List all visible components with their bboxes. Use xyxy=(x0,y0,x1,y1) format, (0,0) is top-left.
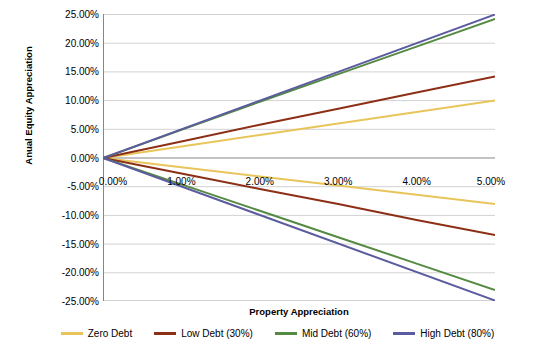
y-tick-label: -10.00% xyxy=(62,209,99,220)
legend-label: Zero Debt xyxy=(88,328,132,339)
y-tick-label: 25.00% xyxy=(65,9,99,20)
x-tick-label: 4.00% xyxy=(402,176,430,187)
y-tick-label: 0.00% xyxy=(71,152,99,163)
legend-item-mid-debt: Mid Debt (60%) xyxy=(275,328,371,339)
chart-container: 25.00% 20.00% 15.00% 10.00% 5.00% 0.00% … xyxy=(0,0,555,361)
legend-swatch-icon xyxy=(393,332,415,335)
y-tick-label: -25.00% xyxy=(62,296,99,307)
y-tick-label: 10.00% xyxy=(65,95,99,106)
legend-label: Mid Debt (60%) xyxy=(302,328,371,339)
y-tick-label: 15.00% xyxy=(65,66,99,77)
legend-label: Low Debt (30%) xyxy=(181,328,253,339)
x-tick-label: 2.00% xyxy=(246,176,274,187)
plot-area xyxy=(103,14,495,301)
y-tick-label: -5.00% xyxy=(67,181,99,192)
x-tick-label: 1.00% xyxy=(167,176,195,187)
y-tick-label: -20.00% xyxy=(62,267,99,278)
legend-swatch-icon xyxy=(61,332,83,335)
legend-item-zero-debt: Zero Debt xyxy=(61,328,132,339)
x-axis-title: Property Appreciation xyxy=(103,306,495,317)
x-tick-label: 3.00% xyxy=(324,176,352,187)
y-tick-label: 20.00% xyxy=(65,37,99,48)
x-tick-label: 0.00% xyxy=(99,176,127,187)
legend-label: High Debt (80%) xyxy=(420,328,494,339)
series-mid-debt xyxy=(103,19,495,290)
x-axis-tick-labels: 0.00% 1.00% 2.00% 3.00% 4.00% 5.00% xyxy=(103,176,503,192)
y-axis-tick-labels: 25.00% 20.00% 15.00% 10.00% 5.00% 0.00% … xyxy=(38,14,99,301)
x-tick-label: 5.00% xyxy=(477,176,505,187)
y-tick-label: -15.00% xyxy=(62,238,99,249)
legend-item-high-debt: High Debt (80%) xyxy=(393,328,494,339)
legend-item-low-debt: Low Debt (30%) xyxy=(154,328,253,339)
legend-swatch-icon xyxy=(154,332,176,335)
y-axis-title: Anual Equity Appreciation xyxy=(23,16,34,196)
chart-legend: Zero Debt Low Debt (30%) Mid Debt (60%) … xyxy=(0,328,555,339)
y-tick-label: 5.00% xyxy=(71,123,99,134)
legend-swatch-icon xyxy=(275,332,297,335)
chart-svg xyxy=(103,14,495,301)
